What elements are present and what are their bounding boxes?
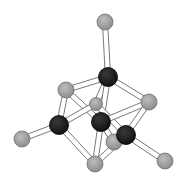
- light-atom: [14, 131, 30, 147]
- molecule-diagram: [0, 0, 185, 186]
- dark-atom: [117, 126, 136, 145]
- light-atom: [90, 98, 103, 111]
- light-atom: [87, 156, 103, 172]
- light-atom: [58, 82, 74, 98]
- dark-atom: [99, 68, 118, 87]
- light-atom: [157, 153, 173, 169]
- light-atom: [97, 14, 113, 30]
- bonds-layer: [21, 22, 166, 166]
- light-atom: [141, 94, 157, 110]
- dark-atom: [92, 113, 111, 132]
- dark-atom: [50, 116, 69, 135]
